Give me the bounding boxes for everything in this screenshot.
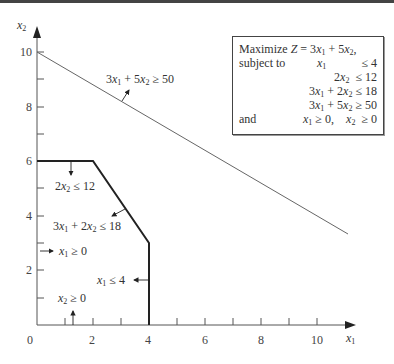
x-tick-0: 0 xyxy=(27,333,33,348)
arrow-icon-c18 xyxy=(112,209,125,216)
constraint-row-2: 2x2 ≤ 12 xyxy=(239,70,377,84)
objective-row: Maximize Z = 3x1 + 5x2, xyxy=(239,42,377,56)
y-tick-10: 10 xyxy=(20,45,32,60)
x-axis-arrow-icon xyxy=(345,321,356,329)
label-x1nonneg: x1 ≥ 0 xyxy=(59,244,87,259)
y-tick-6: 6 xyxy=(26,154,32,169)
label-c12: 2x2 ≤ 12 xyxy=(55,179,95,194)
x-tick-6: 6 xyxy=(202,333,208,348)
y-tick-8: 8 xyxy=(26,100,32,115)
constraint-row-1: subject to x1 ≤ 4 xyxy=(239,56,377,70)
y-tick-4: 4 xyxy=(26,209,32,224)
constraint-row-4: 3x1 + 5x2 ≥ 50 xyxy=(239,98,377,112)
x-tick-8: 8 xyxy=(258,333,264,348)
problem-statement-box: Maximize Z = 3x1 + 5x2, subject to x1 ≤ … xyxy=(232,36,384,135)
x-tick-4: 4 xyxy=(145,333,151,348)
constraint-row-3: 3x1 + 2x2 ≤ 18 xyxy=(239,84,377,98)
label-x1le4: x1 ≤ 4 xyxy=(97,273,125,288)
x-axis-label: x1 xyxy=(346,331,355,346)
x-tick-2: 2 xyxy=(89,333,95,348)
label-c50: 3x1 + 5x2 ≥ 50 xyxy=(106,72,174,87)
y-axis xyxy=(33,26,44,325)
label-c18: 3x1 + 2x2 ≤ 18 xyxy=(53,219,121,234)
x-axis xyxy=(37,318,356,329)
y-axis-arrow-icon xyxy=(33,26,41,38)
x-tick-10: 10 xyxy=(311,333,323,348)
y-tick-2: 2 xyxy=(26,263,32,278)
y-axis-label: x2 xyxy=(17,18,26,33)
constraint-row-5: and x1 ≥ 0, x2 ≥ 0 xyxy=(239,112,377,126)
arrow-icon-c50 xyxy=(122,90,129,101)
label-x2nonneg: x2 ≥ 0 xyxy=(58,291,86,306)
